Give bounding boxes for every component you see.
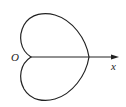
cardioid-diagram: O x bbox=[0, 0, 126, 107]
x-axis-label: x bbox=[110, 60, 116, 72]
x-axis-arrow-icon bbox=[111, 55, 119, 60]
origin-label: O bbox=[11, 51, 19, 63]
